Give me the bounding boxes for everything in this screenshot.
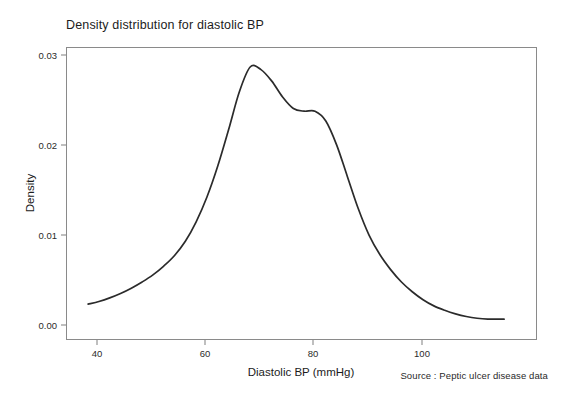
y-tick-label-3: 0.03	[39, 50, 58, 61]
density-plot-figure: Density distribution for diastolic BP 0.…	[0, 0, 566, 405]
x-axis-ticks: 40 60 80 100	[92, 340, 430, 360]
x-tick-label-2: 80	[308, 348, 319, 359]
y-tick-label-1: 0.01	[39, 230, 58, 241]
x-tick-label-0: 40	[92, 348, 103, 359]
density-chart-svg: 0.00 0.01 0.02 0.03 40 60 80 100 Diastol…	[0, 0, 566, 405]
x-axis-title: Diastolic BP (mmHg)	[248, 366, 355, 378]
x-tick-label-3: 100	[414, 348, 430, 359]
y-axis-title: Density	[24, 174, 36, 213]
y-axis-ticks: 0.00 0.01 0.02 0.03	[39, 50, 67, 331]
plot-frame	[67, 48, 537, 340]
source-note: Source : Peptic ulcer disease data	[400, 370, 548, 381]
x-tick-label-1: 60	[200, 348, 211, 359]
y-tick-label-0: 0.00	[39, 320, 58, 331]
y-tick-label-2: 0.02	[39, 140, 58, 151]
